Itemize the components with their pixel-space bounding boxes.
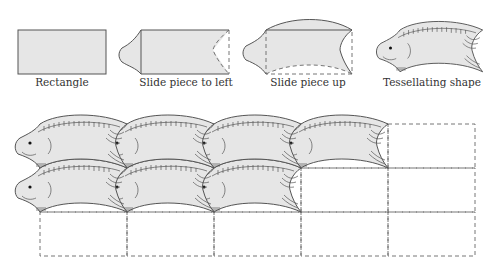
tessellating-label: Tessellating shape	[383, 76, 481, 88]
tessellation-diagram: Rectangle Slide piece to left Slide piec…	[0, 0, 493, 270]
rectangle-shape	[18, 30, 106, 74]
grid-cell	[388, 168, 475, 212]
grid-cell	[40, 212, 127, 256]
slide-left-label: Slide piece to left	[139, 76, 233, 88]
step-slide-left: Slide piece to left	[119, 30, 234, 88]
fish-layer	[15, 115, 388, 212]
slide-up-label: Slide piece up	[270, 76, 346, 88]
grid-cell	[127, 212, 214, 256]
grid-cell	[301, 212, 388, 256]
grid-cell	[301, 168, 388, 212]
rectangle-label: Rectangle	[35, 76, 89, 88]
fish-tile	[15, 159, 127, 212]
grid-cell	[214, 212, 301, 256]
grid-cell	[388, 124, 475, 168]
tessellating-fish	[376, 21, 482, 71]
step-tessellating: Tessellating shape	[376, 21, 482, 88]
step-slide-up: Slide piece up	[243, 20, 352, 89]
grid-cell	[388, 212, 475, 256]
step-rectangle: Rectangle	[18, 30, 106, 88]
slide-left-shape	[119, 30, 229, 74]
